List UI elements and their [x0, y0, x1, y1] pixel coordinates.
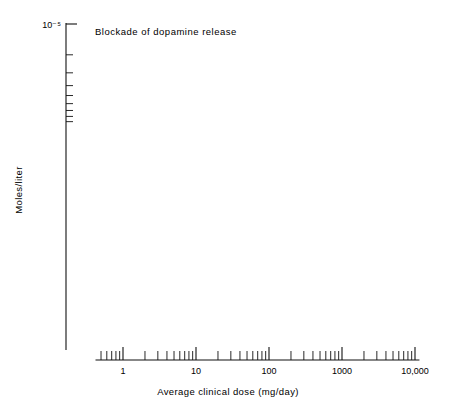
x-axis-tick-labels: 110100100010,000: [120, 366, 428, 376]
x-tick-label: 10,000: [401, 366, 429, 376]
x-axis: 110100100010,000 Average clinical dose (…: [95, 347, 428, 397]
x-axis-title: Average clinical dose (mg/day): [157, 386, 299, 397]
dopamine-blockade-scatter-chart: 10⁻⁵10⁻⁶10⁻⁷10⁻⁸ Moles/liter 11010010001…: [0, 0, 451, 412]
x-tick-label: 100: [261, 366, 276, 376]
x-tick-label: 1: [120, 366, 125, 376]
y-axis: 10⁻⁵10⁻⁶10⁻⁷10⁻⁸ Moles/liter: [13, 0, 77, 350]
y-axis-tick-labels: 10⁻⁵10⁻⁶10⁻⁷10⁻⁸: [42, 0, 61, 30]
y-tick-label: 10⁻⁵: [42, 20, 61, 30]
y-axis-ticks: [66, 24, 77, 122]
x-axis-ticks: [101, 347, 415, 360]
y-axis-title: Moles/liter: [13, 166, 24, 214]
plot-title: Blockade of dopamine release: [95, 26, 237, 37]
figure-panel: 10⁻⁵10⁻⁶10⁻⁷10⁻⁸ Moles/liter 11010010001…: [0, 0, 451, 412]
x-tick-label: 1000: [332, 366, 352, 376]
x-tick-label: 10: [191, 366, 201, 376]
